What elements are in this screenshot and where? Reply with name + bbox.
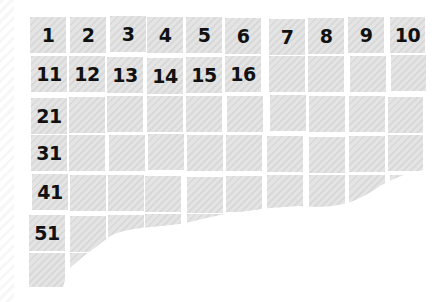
torn-paper-overlay	[0, 0, 446, 302]
